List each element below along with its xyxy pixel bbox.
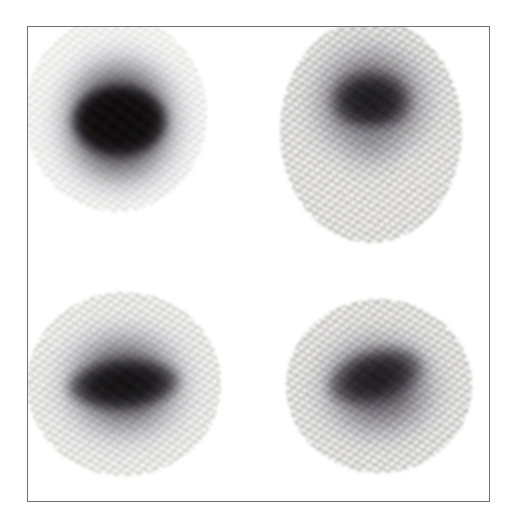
figure-root — [0, 0, 506, 523]
plate-frame — [27, 26, 490, 502]
plate-surface — [28, 27, 489, 501]
